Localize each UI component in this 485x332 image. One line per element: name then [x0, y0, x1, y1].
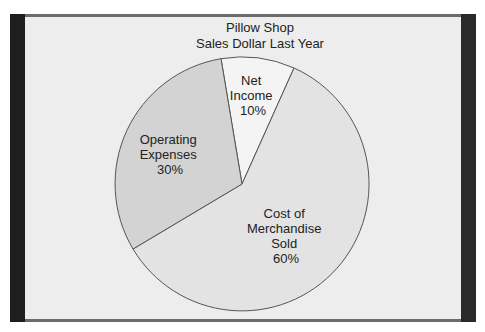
pie-chart: Net Income 10% Operating Expenses 30% Co…	[0, 0, 485, 332]
